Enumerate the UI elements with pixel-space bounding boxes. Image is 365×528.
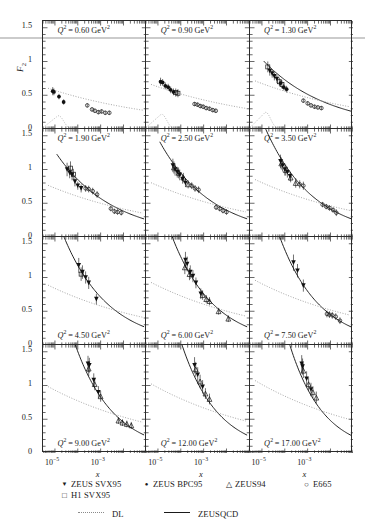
plot-panel: Q2 = 1.90 GeV2 [42,128,145,236]
legend-item-open-square: □H1 SVX95 [58,489,110,500]
legend-curve-label: ZEUSQCD [198,509,238,519]
plot-panel: Q2 = 3.50 GeV2 [249,128,352,236]
panel-q2-label: Q2 = 1.30 GeV2 [264,24,316,35]
open-square-icon: □ [58,491,71,500]
curve-dl [255,81,350,107]
curve-zeusqcd [57,154,144,219]
legend-curve-zeusqcd: ZEUSQCD [164,508,238,519]
legend-item-filled-triangle-down: ▼ZEUS SVX95 [58,478,121,489]
legend-label: ZEUS BPC95 [153,479,202,489]
curve-dl [48,285,143,317]
y-tick-label: 1 [10,56,32,64]
open-triangle-up-icon: △ [222,480,235,489]
x-tick-label: 10−3 [91,456,105,467]
legend-label: ZEUS94 [235,479,266,489]
y-tick-label: 1.5 [10,238,32,246]
curve-secondary [43,116,96,129]
panel-q2-label: Q2 = 0.60 GeV2 [57,24,109,35]
legend-label: H1 SVX95 [71,490,110,500]
solid-line-icon [164,512,190,513]
plot-panel: Q2 = 9.00 GeV2 [42,344,145,452]
panel-q2-label: Q2 = 9.00 GeV2 [57,437,109,448]
x-tick-label: 10−3 [194,456,208,467]
panel-q2-label: Q2 = 3.50 GeV2 [264,132,316,143]
legend-label: E665 [313,479,332,489]
plot-panel: Q2 = 17.00 GeV2 [249,344,352,452]
curve-zeusqcd [289,345,351,435]
curve-dl [48,185,143,213]
plot-panel: Q2 = 0.60 GeV2 [42,20,145,128]
curve-dl [48,387,143,423]
curve-secondary [146,114,199,129]
plot-panel: Q2 = 0.90 GeV2 [145,20,248,128]
y-axis-label-base: F [15,66,25,72]
y-tick-label: 1.5 [10,22,32,30]
figure-root: F2 00000.50.50.50.511111.51.51.51.5 Q2 =… [0,0,365,528]
x-tick-label: 10−3 [297,456,311,467]
curve-zeusqcd [160,142,247,219]
curve-zeusqcd [278,237,351,327]
y-tick-label: 0.5 [10,306,32,314]
curve-zeusqcd [74,345,144,435]
x-tick-label: 10−5 [252,456,266,467]
plot-panel: Q2 = 7.50 GeV2 [249,236,352,344]
plot-panel: Q2 = 2.50 GeV2 [145,128,248,236]
panel-grid: Q2 = 0.60 GeV2Q2 = 0.90 GeV2Q2 = 1.30 Ge… [42,20,352,452]
curve-zeusqcd [171,237,247,327]
legend-curve-dl: DL [78,508,124,519]
open-circle-icon: ○ [300,480,313,489]
panel-q2-label: Q2 = 6.00 GeV2 [161,329,213,340]
legend-item-filled-circle: ●ZEUS BPC95 [140,478,202,489]
panel-q2-label: Q2 = 0.90 GeV2 [161,24,213,35]
panel-q2-label: Q2 = 12.00 GeV2 [161,437,218,448]
x-tick-label: 10−5 [148,456,162,467]
plot-panel: Q2 = 4.50 GeV2 [42,236,145,344]
legend-label: ZEUS SVX95 [71,479,121,489]
panel-q2-label: Q2 = 17.00 GeV2 [264,437,321,448]
y-tick-label: 1 [10,380,32,388]
curve-zeusqcd [181,345,248,435]
curve-dl [48,88,143,110]
y-tick-label: 1.5 [10,130,32,138]
y-tick-label: 0.5 [10,414,32,422]
plot-panel: Q2 = 6.00 GeV2 [145,236,248,344]
filled-circle-icon: ● [140,481,153,487]
legend-curve-label: DL [112,509,124,519]
dotted-line-icon [78,512,104,513]
panel-q2-label: Q2 = 4.50 GeV2 [57,329,109,340]
plot-panel: Q2 = 12.00 GeV2 [145,344,248,452]
curve-dl [255,381,350,420]
panel-q2-label: Q2 = 1.90 GeV2 [57,132,109,143]
curve-dl [151,384,246,421]
legend-item-open-triangle-up: △ZEUS94 [222,478,266,489]
y-tick-label: 0.5 [10,90,32,98]
y-tick-label: 1.5 [10,346,32,354]
curve-secondary [250,112,303,129]
plot-panel: Q2 = 1.30 GeV2 [249,20,352,128]
x-tick-label: 10−5 [45,456,59,467]
filled-triangle-down-icon: ▼ [58,481,71,487]
legend-item-open-circle: ○E665 [300,478,332,489]
y-tick-label: 1 [10,164,32,172]
curve-zeusqcd [62,237,144,327]
y-tick-label: 1 [10,272,32,280]
panel-q2-label: Q2 = 2.50 GeV2 [161,132,213,143]
y-tick-label: 0.5 [10,198,32,206]
y-tick-label: 0 [10,448,32,456]
panel-q2-label: Q2 = 7.50 GeV2 [264,329,316,340]
